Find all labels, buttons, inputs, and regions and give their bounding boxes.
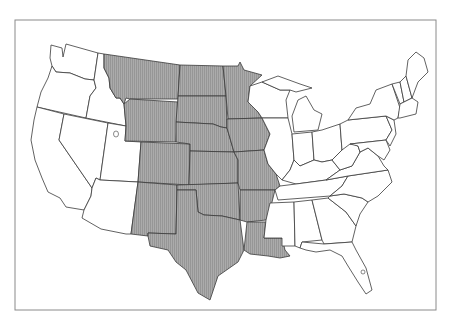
us-map-svg xyxy=(0,0,451,331)
great-salt-lake xyxy=(114,131,119,137)
state-wyoming xyxy=(124,99,178,142)
state-kansas xyxy=(189,151,238,185)
state-colorado xyxy=(138,142,190,185)
state-north-dakota xyxy=(178,65,226,96)
us-map xyxy=(0,0,451,331)
lake-okeechobee xyxy=(361,270,365,274)
state-new-mexico xyxy=(131,182,177,236)
state-iowa xyxy=(227,118,270,152)
